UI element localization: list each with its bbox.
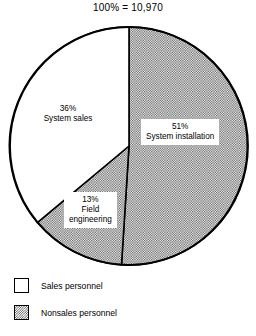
pie-chart-area: 51% System installation 13% Field engine…	[0, 0, 256, 280]
pie-label-system-installation: 51% System installation	[141, 119, 219, 145]
pie-label-system-installation-name: System installation	[146, 132, 214, 142]
pie-label-field-engineering-name-line1: Field	[69, 205, 112, 215]
legend-swatch-sales-personnel	[14, 278, 29, 293]
legend-swatch-nonsales-personnel	[14, 305, 29, 320]
pie-label-field-engineering: 13% Field engineering	[64, 192, 117, 228]
legend-label-nonsales-personnel: Nonsales personnel	[41, 308, 117, 318]
pie-label-system-installation-percent: 51%	[146, 122, 214, 132]
legend-label-sales-personnel: Sales personnel	[41, 281, 103, 291]
pie-slice-system-installation[interactable]	[122, 27, 248, 265]
chart-legend: Sales personnel Nonsales personnel	[14, 277, 244, 331]
legend-item-sales-personnel[interactable]: Sales personnel	[14, 277, 244, 294]
pie-label-field-engineering-name-line2: engineering	[69, 215, 112, 225]
pie-label-system-sales: 36% System sales	[25, 104, 111, 124]
legend-item-nonsales-personnel[interactable]: Nonsales personnel	[14, 304, 244, 321]
pie-label-system-sales-percent: 36%	[25, 104, 111, 114]
pie-label-field-engineering-percent: 13%	[69, 195, 112, 205]
pie-chart-figure: 100% = 10,970 51% System installation	[0, 0, 256, 336]
pie-label-system-sales-name: System sales	[25, 114, 111, 124]
